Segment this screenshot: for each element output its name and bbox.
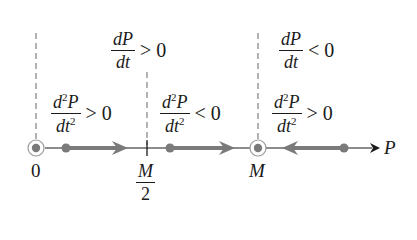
denominator: dt2 — [54, 114, 78, 135]
axis-label-P: P — [384, 137, 396, 159]
denominator: dt — [114, 51, 132, 71]
denominator: dt — [282, 51, 300, 71]
numerator: dP — [279, 30, 303, 51]
denominator: 2 — [139, 183, 152, 203]
second-derivative-label-1: d2P dt2 > 0 — [51, 92, 112, 135]
relation: < 0 — [308, 39, 334, 62]
numerator: d2P — [160, 92, 190, 114]
label-M: M — [249, 160, 265, 182]
relation: > 0 — [86, 102, 112, 125]
denominator: dt2 — [163, 114, 187, 135]
sample-dot — [166, 144, 175, 153]
numerator: M — [136, 162, 155, 183]
first-derivative-negative: dPdt < 0 — [279, 30, 334, 71]
numerator: d2P — [51, 92, 81, 114]
denominator: dt2 — [275, 114, 299, 135]
first-derivative-positive: dPdt > 0 — [111, 30, 166, 71]
numerator: dP — [111, 30, 135, 51]
second-derivative-label-2: d2P dt2 < 0 — [160, 92, 221, 135]
numerator: d2P — [272, 92, 302, 114]
equilibrium-M-dot — [254, 144, 262, 152]
label-zero: 0 — [31, 160, 41, 182]
equilibrium-zero-dot — [32, 144, 40, 152]
second-derivative-label-3: d2P dt2 > 0 — [272, 92, 333, 135]
label-half-M: M2 — [136, 162, 155, 203]
relation: < 0 — [195, 102, 221, 125]
sample-dot — [340, 144, 349, 153]
sample-dot — [62, 144, 71, 153]
relation: > 0 — [307, 102, 333, 125]
relation: > 0 — [140, 39, 166, 62]
